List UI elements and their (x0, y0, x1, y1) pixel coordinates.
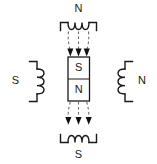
field-line-lower-left (68, 102, 70, 119)
field-arrow-lower-left (65, 117, 71, 125)
field-arrow-lower-center (76, 117, 82, 125)
left-coil: S (12, 62, 44, 102)
bottom-coil: S (61, 135, 97, 161)
field-arrow-upper-left (67, 49, 73, 57)
right-coil-top-lead (125, 62, 133, 70)
bottom-coil-windings (68, 136, 89, 143)
right-coil-pole-label: N (138, 74, 146, 86)
upper-field-lines (67, 32, 90, 57)
left-coil-bottom-lead (30, 94, 38, 102)
field-arrow-upper-center (76, 49, 82, 57)
right-coil-bottom-lead (125, 94, 133, 102)
top-coil-left-lead (61, 23, 69, 31)
top-coil: N (61, 2, 97, 31)
left-coil-windings (37, 69, 44, 94)
diagram-canvas: N S N (0, 0, 157, 164)
bottom-coil-pole-label: S (75, 148, 82, 160)
center-bar-magnet: S N (68, 57, 90, 101)
top-coil-windings (68, 23, 89, 30)
lower-field-lines (65, 102, 92, 125)
field-line-upper-right (87, 32, 89, 51)
left-coil-pole-label: S (12, 74, 19, 86)
bottom-coil-right-lead (89, 135, 97, 143)
top-coil-pole-label: N (75, 2, 83, 14)
left-coil-top-lead (30, 62, 38, 70)
right-coil: N (118, 62, 146, 102)
field-arrow-upper-right (84, 49, 90, 57)
right-coil-windings (118, 69, 125, 94)
magnet-bottom-pole-label: N (75, 83, 83, 95)
top-coil-right-lead (89, 23, 97, 31)
field-line-lower-right (87, 102, 89, 119)
magnet-top-pole-label: S (75, 61, 82, 73)
field-line-upper-left (68, 32, 70, 51)
bottom-coil-left-lead (61, 135, 69, 143)
field-arrow-lower-right (86, 117, 92, 125)
magnet-coil-diagram: N S N (0, 0, 157, 164)
